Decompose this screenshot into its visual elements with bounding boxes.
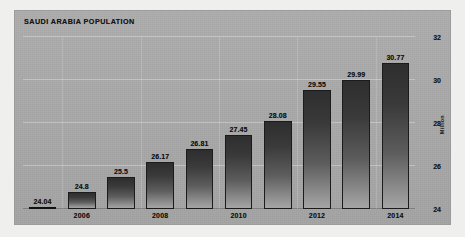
bars-layer: 24.0424.825.526.1726.8127.4528.0829.5529… — [23, 37, 415, 209]
bar-2008[interactable] — [146, 162, 173, 209]
y-axis-label-32: 32 — [433, 34, 441, 41]
x-axis-label-2008: 2008 — [138, 212, 181, 219]
bar-value-label: 24.8 — [62, 183, 101, 190]
bar-value-label: 29.55 — [297, 81, 336, 88]
screenshot-root: SAUDI ARABIA POPULATION 24.0424.825.526.… — [0, 0, 465, 237]
bar-2007[interactable] — [107, 177, 134, 209]
bar-value-label: 30.77 — [376, 54, 415, 61]
y-axis-title: Million — [439, 115, 445, 134]
y-axis: 2426283032 — [421, 37, 441, 209]
y-axis-label-30: 30 — [433, 77, 441, 84]
bar-2012[interactable] — [303, 90, 330, 209]
plot-area: 24.0424.825.526.1726.8127.4528.0829.5529… — [23, 37, 415, 209]
bar-value-label: 26.81 — [180, 140, 219, 147]
x-axis-label-2014: 2014 — [374, 212, 417, 219]
bar-2011[interactable] — [264, 121, 291, 209]
bar-value-label: 29.99 — [336, 71, 375, 78]
bar-value-label: 28.08 — [258, 112, 297, 119]
bar-2010[interactable] — [225, 135, 252, 209]
y-axis-label-24: 24 — [433, 206, 441, 213]
y-axis-label-26: 26 — [433, 163, 441, 170]
bar-2014[interactable] — [382, 63, 409, 209]
bar-2006[interactable] — [68, 192, 95, 209]
bar-2009[interactable] — [186, 149, 213, 209]
bar-2005[interactable] — [29, 207, 56, 209]
bar-2013[interactable] — [342, 80, 369, 209]
chart-panel: SAUDI ARABIA POPULATION 24.0424.825.526.… — [14, 10, 451, 225]
bar-value-label: 24.04 — [23, 198, 62, 205]
x-axis-label-2010: 2010 — [217, 212, 260, 219]
x-axis-label-2012: 2012 — [295, 212, 338, 219]
bar-value-label: 27.45 — [219, 126, 258, 133]
x-axis-label-2006: 2006 — [60, 212, 103, 219]
bar-value-label: 26.17 — [140, 153, 179, 160]
bar-value-label: 25.5 — [101, 168, 140, 175]
chart-title: SAUDI ARABIA POPULATION — [24, 17, 135, 26]
